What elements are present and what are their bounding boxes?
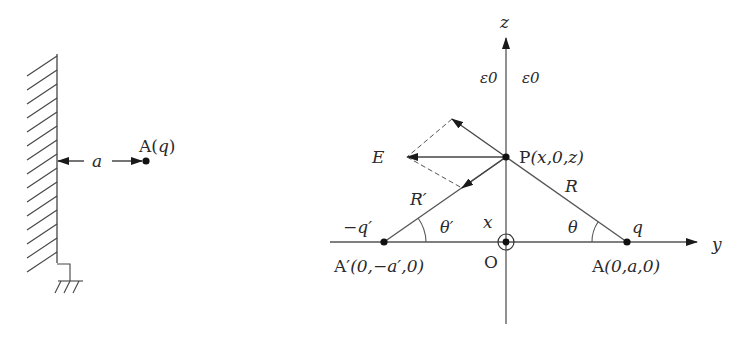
distance-R-prime-label: R′ [409,189,427,209]
z-axis-label: z [499,12,510,32]
distance-dimension: a [58,151,142,171]
ground-symbol [55,264,83,293]
point-charge-A [142,157,149,164]
parallelogram-dashed-lower [407,157,462,188]
diagram-canvas: a A(q) z y ε0 ε0 x O R R′ E P(x,0,z) q A… [0,0,740,342]
distance-R-label: R [564,176,578,196]
conducting-plane [27,54,57,272]
field-component-from-image-arrow [462,157,506,188]
distance-label: a [92,151,102,171]
origin-dot [503,239,510,246]
plane-hatching [27,56,57,272]
field-E-label: E [371,147,385,167]
permittivity-right: ε0 [522,69,540,87]
point-P [502,153,509,160]
charge-label-A: A(q) [138,136,175,156]
field-component-from-q-arrow [452,119,506,157]
point-A-prime-label: A′(0,−a′,0) [333,256,424,276]
charge-q-point [623,238,630,245]
angle-theta-prime-label: θ′ [440,218,454,237]
point-A-label: A(0,a,0) [591,256,660,276]
distance-R-line [506,157,627,242]
point-P-label: P(x,0,z) [519,147,584,167]
y-axis-label: y [711,234,722,254]
angle-theta-label: θ [568,218,578,237]
image-charge-label: −q′ [343,217,372,237]
charge-q-label: q [632,217,643,237]
parallelogram-dashed-upper [407,119,452,157]
image-charge-point [380,238,387,245]
origin-label: O [484,252,498,272]
x-axis-label: x [483,212,493,232]
permittivity-left: ε0 [480,69,498,87]
angle-theta-arc [592,222,598,242]
angle-theta-prime-arc [418,218,426,242]
